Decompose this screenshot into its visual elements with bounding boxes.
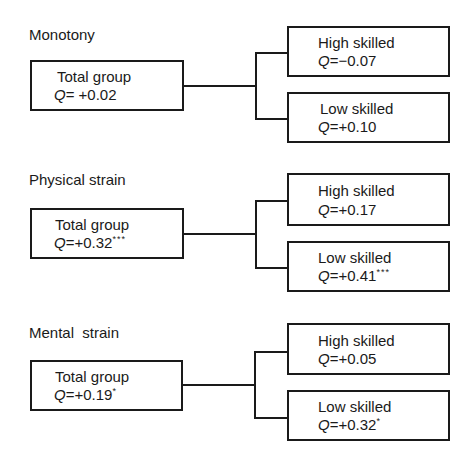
box-label: Low skilled: [320, 100, 393, 117]
section-mental-strain: Mental strain Total group Q=+0.19* High …: [0, 300, 472, 450]
box-q-value: Q=+0.41***: [318, 267, 390, 284]
box-q-value: Q=+0.05: [318, 350, 376, 367]
box-label: Total group: [55, 368, 129, 385]
connector-line: [184, 85, 256, 87]
connector-line: [254, 351, 256, 419]
connector-line: [255, 200, 257, 269]
connector-line: [184, 233, 256, 235]
high-skilled-box: High skilled Q=+0.05: [287, 323, 450, 375]
section-physical-strain: Physical strain Total group Q=+0.32*** H…: [0, 150, 472, 300]
connector-line: [183, 384, 255, 386]
total-group-box: Total group Q=+0.32***: [30, 208, 184, 259]
connector-line: [255, 118, 288, 120]
box-q-value: Q=+0.19*: [54, 386, 117, 403]
box-label: High skilled: [318, 34, 395, 51]
high-skilled-box: High skilled Q=−0.07: [287, 26, 450, 77]
box-q-value: Q= +0.02: [54, 86, 117, 103]
total-group-box: Total group Q= +0.02: [30, 60, 184, 111]
low-skilled-box: Low skilled Q=+0.41***: [287, 241, 450, 292]
box-label: Low skilled: [318, 398, 391, 415]
section-title: Physical strain: [29, 171, 126, 188]
box-q-value: Q=−0.07: [318, 52, 376, 69]
connector-line: [255, 267, 288, 269]
connector-line: [255, 52, 288, 54]
low-skilled-box: Low skilled Q=+0.32*: [287, 390, 450, 441]
box-label: Total group: [55, 216, 129, 233]
connector-line: [255, 52, 257, 120]
section-title: Mental strain: [29, 324, 119, 341]
total-group-box: Total group Q=+0.19*: [30, 360, 183, 411]
box-q-value: Q=+0.17: [318, 201, 376, 218]
section-monotony: Monotony Total group Q= +0.02 High skill…: [0, 0, 472, 150]
box-q-value: Q=+0.10: [318, 118, 376, 135]
section-title: Monotony: [29, 26, 95, 43]
box-label: High skilled: [318, 182, 395, 199]
connector-line: [254, 351, 288, 353]
high-skilled-box: High skilled Q=+0.17: [287, 173, 450, 226]
low-skilled-box: Low skilled Q=+0.10: [287, 92, 450, 143]
box-label: Low skilled: [318, 249, 391, 266]
box-label: High skilled: [318, 332, 395, 349]
box-q-value: Q=+0.32*: [318, 416, 381, 433]
box-q-value: Q=+0.32***: [54, 234, 126, 251]
connector-line: [255, 200, 288, 202]
box-label: Total group: [57, 68, 131, 85]
connector-line: [254, 417, 288, 419]
